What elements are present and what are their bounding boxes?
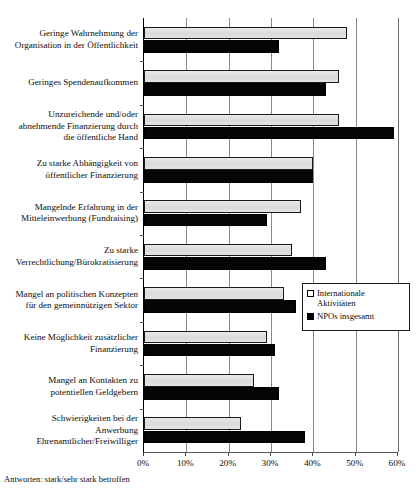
category-label-line: Mangelnde Erfahrung in der bbox=[2, 202, 138, 214]
category-tick bbox=[140, 235, 144, 236]
category-tick bbox=[140, 278, 144, 279]
category-label-line: Unzureichende und/oder bbox=[2, 109, 138, 121]
category-label-line: abnehmende Finanzierung durch bbox=[2, 121, 138, 133]
bar-group bbox=[144, 417, 398, 443]
legend: InternationaleAktivitätenNPOs insgesamt bbox=[302, 283, 410, 331]
category-tick bbox=[140, 148, 144, 149]
category-label-line: Ehrenamtlicher/Freiwilliger bbox=[2, 436, 138, 448]
category-label-line: öffentlicher Finanzierung bbox=[2, 170, 138, 182]
bar-internationale-8 bbox=[144, 374, 254, 387]
bar-npos-1 bbox=[144, 83, 326, 96]
category-tick bbox=[140, 365, 144, 366]
legend-label-line: Aktivitäten bbox=[317, 298, 365, 308]
x-tick-mark-10 bbox=[185, 452, 186, 456]
category-label-line: Verrechtlichung/Bürokratisierung bbox=[2, 257, 138, 269]
bar-npos-8 bbox=[144, 387, 279, 400]
legend-item-npos: NPOs insgesamt bbox=[307, 311, 406, 321]
bar-group bbox=[144, 157, 398, 183]
legend-swatch-icon bbox=[307, 313, 314, 320]
category-label: Zu starkeVerrechtlichung/Bürokratisierun… bbox=[2, 245, 138, 268]
legend-swatch-icon bbox=[307, 290, 314, 297]
category-tick bbox=[140, 105, 144, 106]
category-label-line: Finanzierung bbox=[2, 344, 138, 356]
category-label-line: Zu starke Abhängigkeit von bbox=[2, 158, 138, 170]
bar-internationale-5 bbox=[144, 244, 292, 257]
category-tick bbox=[140, 61, 144, 62]
bar-internationale-3 bbox=[144, 157, 313, 170]
category-label-line: die öffentliche Hand bbox=[2, 132, 138, 144]
bar-internationale-9 bbox=[144, 417, 241, 430]
bar-npos-2 bbox=[144, 127, 394, 140]
bar-npos-9 bbox=[144, 431, 305, 444]
category-label-line: Mangel an politischen Konzepten bbox=[2, 289, 138, 301]
category-label-line: Geringes Spendenaufkommen bbox=[2, 77, 138, 89]
chart-container: Geringe Wahrnehmung derOrganisation in d… bbox=[0, 0, 416, 497]
bar-internationale-1 bbox=[144, 70, 339, 83]
x-tick-label-50: 50% bbox=[335, 458, 375, 468]
bar-npos-4 bbox=[144, 214, 267, 227]
footnote: Antworten: stark/sehr stark betroffen bbox=[4, 474, 130, 484]
legend-label: InternationaleAktivitäten bbox=[317, 288, 365, 309]
bar-internationale-7 bbox=[144, 331, 267, 344]
bar-group bbox=[144, 244, 398, 270]
category-label-line: Mitteleinwerbung (Fundraising) bbox=[2, 213, 138, 225]
bar-npos-3 bbox=[144, 170, 313, 183]
category-label-line: potentiellen Geldgebern bbox=[2, 387, 138, 399]
category-label: Geringe Wahrnehmung derOrganisation in d… bbox=[2, 28, 138, 51]
bar-group bbox=[144, 27, 398, 53]
category-label-line: für den gemeinnützigen Sektor bbox=[2, 300, 138, 312]
category-tick bbox=[140, 409, 144, 410]
bar-group bbox=[144, 331, 398, 357]
bar-group bbox=[144, 374, 398, 400]
category-label: Unzureichende und/oderabnehmende Finanzi… bbox=[2, 109, 138, 144]
bar-internationale-6 bbox=[144, 287, 284, 300]
bar-npos-5 bbox=[144, 257, 326, 270]
category-label-line: Geringe Wahrnehmung der bbox=[2, 28, 138, 40]
x-tick-mark-30 bbox=[270, 452, 271, 456]
x-tick-mark-0 bbox=[143, 452, 144, 456]
bar-internationale-4 bbox=[144, 200, 301, 213]
bar-internationale-2 bbox=[144, 114, 339, 127]
gridline-60 bbox=[398, 18, 399, 452]
x-tick-label-0: 0% bbox=[123, 458, 163, 468]
legend-label-line: NPOs insgesamt bbox=[317, 311, 374, 321]
bar-group bbox=[144, 70, 398, 96]
x-tick-mark-20 bbox=[228, 452, 229, 456]
category-label-line: Schwierigkeiten bei der bbox=[2, 413, 138, 425]
category-label: Geringes Spendenaufkommen bbox=[2, 77, 138, 89]
x-tick-label-20: 20% bbox=[208, 458, 248, 468]
legend-item-internationale: InternationaleAktivitäten bbox=[307, 288, 406, 309]
x-tick-mark-60 bbox=[397, 452, 398, 456]
category-label-line: Anwerbung bbox=[2, 425, 138, 437]
x-tick-label-30: 30% bbox=[250, 458, 290, 468]
category-label: Zu starke Abhängigkeit vonöffentlicher F… bbox=[2, 158, 138, 181]
category-tick bbox=[140, 322, 144, 323]
bar-npos-6 bbox=[144, 300, 296, 313]
legend-label-line: Internationale bbox=[317, 288, 365, 298]
category-label-line: Mangel an Kontakten zu bbox=[2, 375, 138, 387]
category-label: Mangelnde Erfahrung in derMitteleinwerbu… bbox=[2, 202, 138, 225]
category-tick bbox=[140, 192, 144, 193]
x-tick-label-60: 60% bbox=[377, 458, 416, 468]
category-label: Schwierigkeiten bei derAnwerbungEhrenamt… bbox=[2, 413, 138, 448]
x-tick-mark-50 bbox=[355, 452, 356, 456]
bar-group bbox=[144, 200, 398, 226]
bar-group bbox=[144, 114, 398, 140]
category-label-line: Zu starke bbox=[2, 245, 138, 257]
x-tick-label-40: 40% bbox=[292, 458, 332, 468]
category-label: Mangel an politischen Konzeptenfür den g… bbox=[2, 289, 138, 312]
legend-label: NPOs insgesamt bbox=[317, 311, 374, 321]
plot-area bbox=[143, 18, 398, 453]
bar-internationale-0 bbox=[144, 27, 347, 40]
bar-npos-0 bbox=[144, 40, 279, 53]
category-label-line: Keine Möglichkeit zusätzlicher bbox=[2, 332, 138, 344]
x-tick-mark-40 bbox=[312, 452, 313, 456]
x-tick-label-10: 10% bbox=[165, 458, 205, 468]
category-label-line: Organisation in der Öffentlichkeit bbox=[2, 40, 138, 52]
bar-npos-7 bbox=[144, 344, 275, 357]
category-label: Keine Möglichkeit zusätzlicherFinanzieru… bbox=[2, 332, 138, 355]
category-label: Mangel an Kontakten zupotentiellen Geldg… bbox=[2, 375, 138, 398]
